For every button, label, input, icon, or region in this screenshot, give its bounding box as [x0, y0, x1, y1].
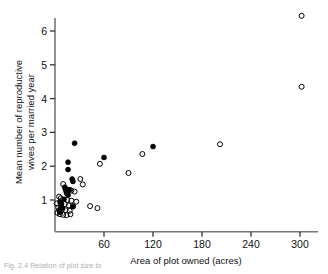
data-point-open-7: [80, 182, 85, 187]
data-point-open-4: [97, 161, 102, 166]
data-point-open-0: [299, 13, 304, 18]
data-point-filled-10: [66, 192, 71, 197]
data-point-open-5: [126, 170, 131, 175]
x-tick-label-300: 300: [291, 238, 309, 250]
y-tick-label-1: 1: [41, 194, 47, 206]
x-axis-title: Area of plot owned (acres): [130, 255, 241, 266]
y-tick-label-5: 5: [41, 59, 47, 71]
data-point-filled-19: [102, 155, 107, 160]
data-point-open-3: [140, 152, 145, 157]
data-point-filled-1: [66, 160, 71, 165]
data-point-open-12: [72, 189, 77, 194]
x-tick-label-240: 240: [242, 238, 260, 250]
y-tick-label-2: 2: [41, 160, 47, 172]
data-point-open-16: [74, 199, 79, 204]
x-tick-label-180: 180: [193, 238, 211, 250]
data-point-open-29: [88, 204, 93, 209]
y-tick-label-3: 3: [41, 126, 47, 138]
data-point-open-1: [299, 84, 304, 89]
data-point-filled-2: [66, 167, 71, 172]
data-point-open-30: [95, 206, 100, 211]
y-axis-title-line2: wives per married year: [25, 74, 36, 171]
y-tick-label-6: 6: [41, 25, 47, 37]
data-point-filled-0: [72, 141, 77, 146]
data-point-open-6: [78, 177, 83, 182]
data-point-open-2: [217, 142, 222, 147]
y-tick-label-4: 4: [41, 93, 47, 105]
y-axis-title-line1: Mean number of reproductive: [13, 60, 24, 184]
x-tick-label-120: 120: [144, 238, 162, 250]
data-point-filled-20: [151, 144, 156, 149]
figure-container: 12345660120180240300Area of plot owned (…: [0, 0, 328, 274]
x-tick-label-60: 60: [98, 238, 110, 250]
figure-caption: Fig. 2.4 Relation of plot size to: [4, 261, 101, 270]
scatter-plot: 12345660120180240300Area of plot owned (…: [0, 0, 328, 274]
data-point-filled-4: [70, 179, 75, 184]
